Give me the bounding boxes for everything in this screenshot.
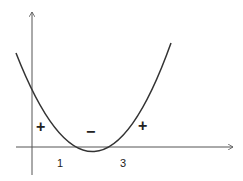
root-label-3: 3 <box>120 157 126 169</box>
sign-negative-middle: − <box>86 123 95 141</box>
sign-positive-right: + <box>138 117 147 135</box>
parabola-diagram <box>0 0 243 181</box>
sign-positive-left: + <box>36 118 45 136</box>
root-label-1: 1 <box>57 157 63 169</box>
